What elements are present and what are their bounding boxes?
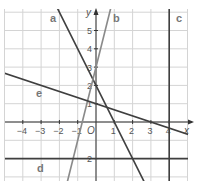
x-tick-label: 1: [111, 126, 116, 136]
series-lines: [0, 0, 204, 186]
y-tick-label: 4: [87, 44, 92, 54]
origin-label: O: [87, 125, 95, 136]
line-label-e: e: [36, 87, 42, 99]
y-tick-label: 5: [87, 26, 92, 36]
line-label-b: b: [113, 12, 120, 24]
y-axis-arrow-icon: [94, 8, 99, 15]
x-tick-label: 3: [147, 126, 152, 136]
line-label-c: c: [176, 12, 182, 24]
x-axis-arrow-icon: [188, 120, 194, 125]
x-tick-label: −3: [35, 126, 45, 136]
x-tick-label: 2: [129, 126, 134, 136]
line-label-a: a: [50, 12, 57, 24]
line-label-d: d: [37, 162, 44, 174]
coordinate-plane: −4−3−2−11234543212xyOabcde: [0, 0, 204, 186]
x-tick-label: −2: [53, 126, 63, 136]
y-axis-label: y: [85, 7, 92, 18]
graph-canvas: −4−3−2−11234543212xyOabcde: [0, 0, 204, 186]
x-tick-label: −4: [17, 126, 27, 136]
